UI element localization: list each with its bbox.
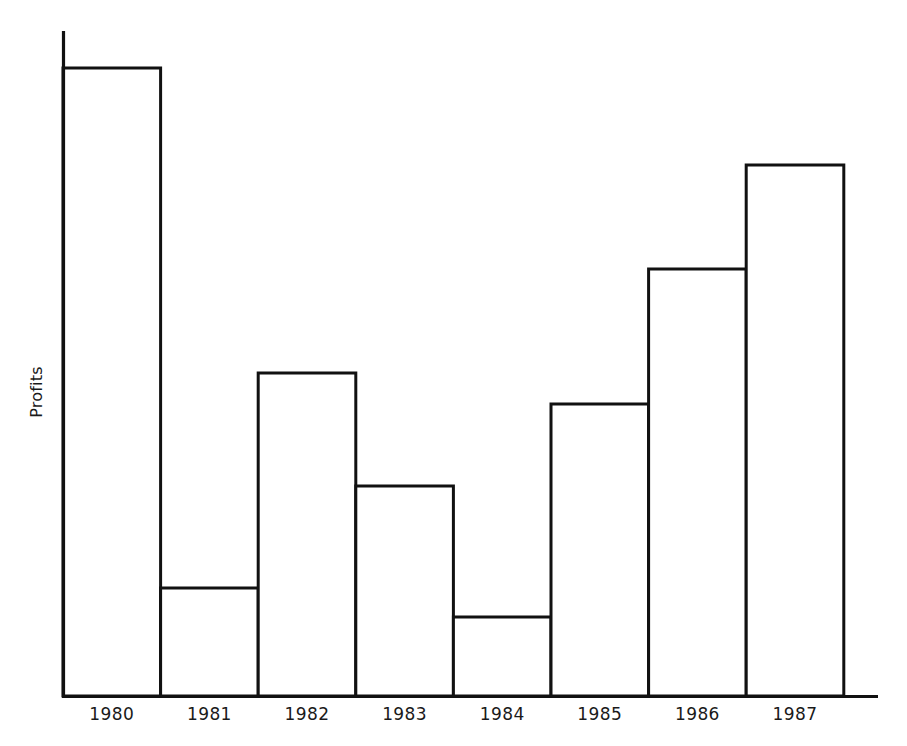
- x-tick-label-1984: 1984: [480, 704, 525, 724]
- bar-1987[interactable]: [746, 165, 844, 696]
- bar-chart-figure: 1980 1981 1982 1983 1984 1985 1986 1987 …: [0, 0, 907, 746]
- chart-canvas: 1980 1981 1982 1983 1984 1985 1986 1987 …: [0, 0, 907, 746]
- x-tick-label-1987: 1987: [773, 704, 818, 724]
- x-tick-label-1980: 1980: [89, 704, 134, 724]
- bar-1980[interactable]: [63, 68, 161, 696]
- bar-1982[interactable]: [258, 373, 356, 696]
- x-tick-label-1986: 1986: [675, 704, 720, 724]
- x-tick-labels: 1980 1981 1982 1983 1984 1985 1986 1987: [89, 704, 817, 724]
- bar-1984[interactable]: [453, 617, 551, 696]
- bar-1985[interactable]: [551, 404, 649, 696]
- bars-group: [63, 68, 844, 696]
- x-tick-label-1981: 1981: [187, 704, 232, 724]
- bar-1986[interactable]: [649, 269, 747, 696]
- bar-1983[interactable]: [356, 486, 454, 696]
- bar-1981[interactable]: [161, 588, 259, 696]
- x-tick-label-1985: 1985: [577, 704, 622, 724]
- x-tick-label-1982: 1982: [285, 704, 330, 724]
- x-tick-label-1983: 1983: [382, 704, 427, 724]
- y-axis-title: Profits: [27, 366, 46, 417]
